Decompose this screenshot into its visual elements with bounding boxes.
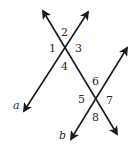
- angle-label-7: 7: [106, 94, 113, 107]
- angle-label-5: 5: [78, 93, 85, 106]
- angle-label-8: 8: [92, 111, 99, 124]
- transversal-line: [43, 11, 117, 134]
- line-b-label: b: [59, 129, 66, 142]
- parallel-lines-diagram: 1 2 3 4 5 6 7 8 a b: [0, 0, 137, 152]
- angle-label-3: 3: [75, 42, 82, 55]
- angle-label-6: 6: [92, 75, 99, 88]
- angle-label-4: 4: [61, 60, 68, 73]
- angle-label-2: 2: [61, 26, 68, 39]
- angle-label-1: 1: [49, 42, 56, 55]
- line-a-label: a: [13, 99, 20, 112]
